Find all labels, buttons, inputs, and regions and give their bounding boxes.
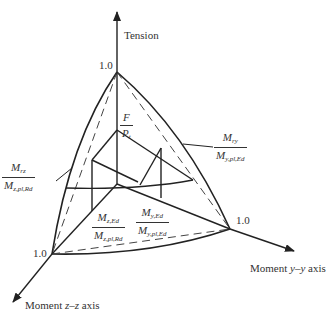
tension-axis-label: Tension bbox=[124, 30, 159, 41]
mrz-ratio-label: Mrz Mz,pl,Rd bbox=[2, 162, 35, 193]
moment-z-tick-label: 1.0 bbox=[33, 248, 47, 259]
section-curve-horizontal bbox=[66, 180, 193, 188]
inner-axis-to-y bbox=[117, 184, 230, 229]
moment-z-axis bbox=[13, 254, 52, 302]
moment-y-axis-label: Moment y–y axis bbox=[250, 263, 326, 274]
mz-ed-ratio-label: Mz,Ed Mz,pl,Rd bbox=[92, 212, 125, 243]
moment-z-axis-label: Moment z–z axis bbox=[25, 300, 100, 311]
leader-mry bbox=[183, 144, 213, 147]
moment-y-axis bbox=[230, 229, 294, 251]
force-ratio-label: F Pt bbox=[120, 112, 133, 141]
section-line-left-diag bbox=[92, 160, 138, 182]
section-line-left-top bbox=[92, 130, 117, 160]
moment-y-tick-label: 1.0 bbox=[236, 215, 250, 226]
my-ed-ratio-label: My,Ed My,pl,Ed bbox=[136, 207, 169, 238]
mry-ratio-label: Mry My,pl,Ed bbox=[214, 132, 247, 163]
section-line-right-diag bbox=[140, 148, 161, 185]
tension-tick-label: 1.0 bbox=[99, 60, 113, 71]
